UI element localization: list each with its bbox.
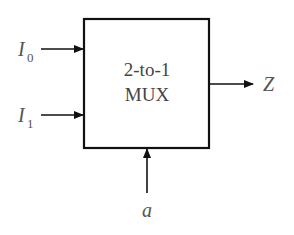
svg-text:I: I [17,104,26,126]
input-i0-label: I 0 [17,38,34,65]
svg-text:1: 1 [27,116,34,131]
mux-diagram: 2-to-1 MUX I 0 I 1 Z a [0,0,294,235]
svg-text:I: I [17,38,26,60]
mux-label-line2: MUX [125,84,170,105]
svg-text:0: 0 [27,50,34,65]
mux-label-line1: 2-to-1 [124,59,170,80]
input-i1-label: I 1 [17,104,34,131]
output-z-label: Z [263,73,275,95]
select-a-label: a [142,199,152,221]
